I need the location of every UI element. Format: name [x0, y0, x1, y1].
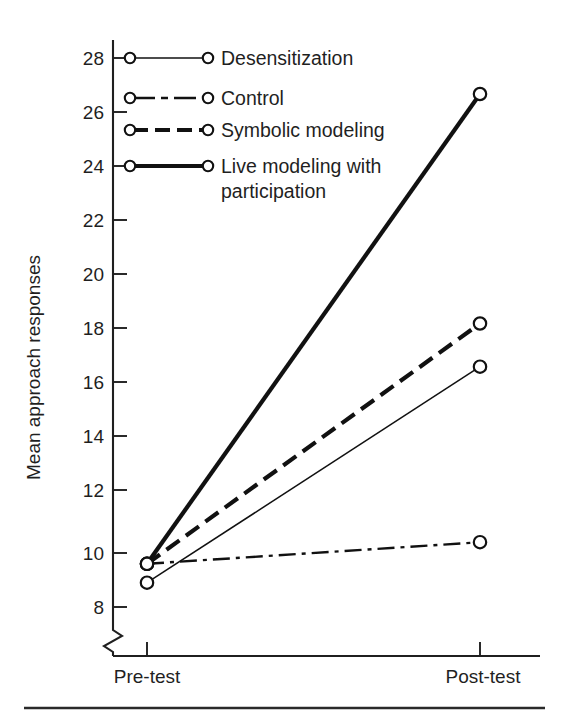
series-line-symbolic-modeling	[147, 324, 480, 564]
data-point-control-post-test	[474, 536, 486, 548]
legend: Desensitization Control Symbolic modelin…	[125, 47, 385, 202]
y-tick-label: 12	[83, 480, 104, 501]
figure-container: 28 26 24 22 20 18 16 14 12 10 8 Mean app…	[0, 0, 562, 714]
series-symbolic-modeling	[141, 317, 486, 570]
y-tick-label: 8	[93, 597, 104, 618]
y-tick-label: 18	[83, 318, 104, 339]
y-tick-label: 14	[83, 426, 105, 447]
y-tick-label: 16	[83, 372, 104, 393]
legend-marker-end-desensitization	[203, 53, 213, 63]
y-tick-label: 10	[83, 543, 104, 564]
legend-marker-end-control	[203, 93, 213, 103]
legend-item-desensitization: Desensitization	[125, 47, 353, 69]
y-axis-ticks	[113, 58, 127, 607]
legend-marker-start-desensitization	[125, 53, 135, 63]
series-line-desensitization	[147, 367, 480, 583]
x-tick-label-post-test: Post-test	[446, 666, 522, 687]
data-point-symbolic-modeling-post-test	[474, 317, 486, 329]
y-axis-break-icon	[104, 620, 122, 656]
x-axis-tick-labels: Pre-test Post-test	[114, 666, 521, 687]
legend-item-live-modeling-with-participation: Live modeling with participation	[125, 155, 382, 202]
legend-marker-start-live-modeling	[125, 161, 135, 171]
data-point-desensitization-post-test	[474, 361, 486, 373]
y-axis-tick-labels: 28 26 24 22 20 18 16 14 12 10 8	[83, 48, 105, 618]
y-tick-label: 20	[83, 264, 104, 285]
y-axis	[104, 40, 122, 656]
legend-marker-end-symbolic-modeling	[203, 125, 213, 135]
legend-marker-start-symbolic-modeling	[125, 125, 135, 135]
legend-label-desensitization: Desensitization	[221, 47, 353, 69]
x-tick-label-pre-test: Pre-test	[114, 666, 181, 687]
legend-item-control: Control	[125, 87, 284, 109]
legend-marker-end-live-modeling	[203, 161, 213, 171]
data-point-desensitization-pre-test	[141, 577, 153, 589]
legend-label-control: Control	[221, 87, 284, 109]
data-point-live-modeling-post-test	[474, 88, 486, 100]
y-axis-title: Mean approach responses	[23, 255, 44, 480]
y-tick-label: 24	[83, 156, 105, 177]
legend-marker-start-control	[125, 93, 135, 103]
legend-label-symbolic-modeling: Symbolic modeling	[221, 119, 385, 141]
data-point-control-pre-test	[141, 558, 153, 570]
y-tick-label: 22	[83, 210, 104, 231]
line-chart: 28 26 24 22 20 18 16 14 12 10 8 Mean app…	[0, 0, 562, 714]
legend-label-live-modeling-line2: participation	[221, 180, 326, 202]
series-desensitization	[141, 361, 486, 589]
y-tick-label: 28	[83, 48, 104, 69]
x-axis	[113, 642, 540, 656]
series-line-control	[147, 542, 480, 564]
legend-item-symbolic-modeling: Symbolic modeling	[125, 119, 385, 141]
legend-label-live-modeling: Live modeling with	[221, 155, 381, 177]
y-tick-label: 26	[83, 102, 104, 123]
